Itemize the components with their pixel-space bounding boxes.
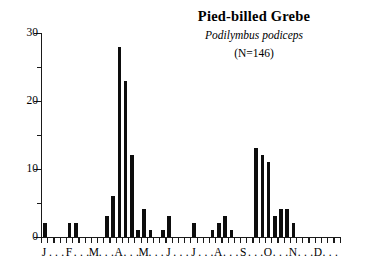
y-tick-label: 10 xyxy=(8,163,38,174)
bar xyxy=(161,230,165,237)
y-tick-minor xyxy=(37,135,42,136)
x-tick xyxy=(215,238,216,243)
bar xyxy=(254,148,258,236)
x-tick xyxy=(141,238,142,243)
x-tick xyxy=(315,238,316,243)
bar xyxy=(211,230,215,237)
x-tick xyxy=(209,238,210,243)
x-tick xyxy=(246,238,247,243)
x-tick xyxy=(197,238,198,243)
bar xyxy=(285,209,289,236)
phenology-figure: Pied-billed Grebe Podilymbus podiceps (N… xyxy=(0,0,365,274)
bar xyxy=(230,230,234,237)
bar xyxy=(149,230,153,237)
plot-area: 0102030 J...F...M...A...M...J...J...A...… xyxy=(0,0,365,274)
y-tick-minor xyxy=(37,67,42,68)
bar xyxy=(105,216,109,236)
x-tick xyxy=(265,238,266,243)
x-tick xyxy=(72,238,73,243)
bar xyxy=(192,223,196,237)
x-tick xyxy=(190,238,191,243)
x-tick xyxy=(47,238,48,243)
x-tick xyxy=(308,238,309,243)
x-tick xyxy=(116,238,117,243)
x-tick xyxy=(333,238,334,243)
x-tick xyxy=(97,238,98,243)
x-tick xyxy=(147,238,148,243)
x-tick xyxy=(66,238,67,243)
x-tick xyxy=(340,238,341,243)
bar xyxy=(261,155,265,236)
x-tick xyxy=(290,238,291,243)
x-tick xyxy=(85,238,86,243)
x-tick xyxy=(41,238,42,243)
x-tick xyxy=(184,238,185,243)
x-tick xyxy=(122,238,123,243)
x-tick xyxy=(153,238,154,243)
x-tick xyxy=(284,238,285,243)
x-tick xyxy=(240,238,241,243)
bar xyxy=(279,209,283,236)
x-tick xyxy=(234,238,235,243)
x-tick xyxy=(271,238,272,243)
x-tick xyxy=(53,238,54,243)
bar xyxy=(217,223,221,237)
x-tick xyxy=(221,238,222,243)
x-tick xyxy=(159,238,160,243)
bar xyxy=(74,223,78,237)
x-tick xyxy=(296,238,297,243)
x-tick xyxy=(302,238,303,243)
bar xyxy=(68,223,72,237)
bar xyxy=(111,196,115,237)
y-tick-label: 20 xyxy=(8,95,38,106)
bar xyxy=(136,230,140,237)
x-tick xyxy=(165,238,166,243)
y-tick-label: 30 xyxy=(8,27,38,38)
bar xyxy=(223,216,227,236)
bar xyxy=(118,47,122,237)
x-tick xyxy=(259,238,260,243)
x-tick xyxy=(327,238,328,243)
y-axis-line xyxy=(41,33,42,238)
x-tick xyxy=(109,238,110,243)
bar xyxy=(292,223,296,237)
x-tick xyxy=(103,238,104,243)
y-tick-minor xyxy=(37,203,42,204)
x-tick xyxy=(78,238,79,243)
x-tick xyxy=(228,238,229,243)
bar xyxy=(167,216,171,236)
x-tick xyxy=(60,238,61,243)
y-tick-label: 0 xyxy=(8,231,38,242)
x-tick xyxy=(172,238,173,243)
bar xyxy=(142,209,146,236)
x-month-dot: . xyxy=(329,246,343,259)
x-tick xyxy=(91,238,92,243)
bar xyxy=(267,162,271,237)
x-tick xyxy=(134,238,135,243)
bar xyxy=(273,216,277,236)
x-tick xyxy=(203,238,204,243)
bar xyxy=(43,223,47,237)
x-tick xyxy=(128,238,129,243)
bar xyxy=(130,155,134,236)
x-tick xyxy=(252,238,253,243)
x-tick xyxy=(178,238,179,243)
bar xyxy=(124,81,128,237)
x-tick xyxy=(277,238,278,243)
x-tick xyxy=(321,238,322,243)
